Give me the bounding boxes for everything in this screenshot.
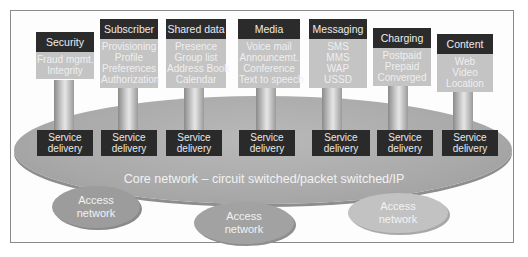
service-card-charging: Charging Postpaid Prepaid Converged [373,28,431,86]
service-delivery-subscriber: Service delivery [101,130,157,156]
service-item: Calendar [167,74,225,85]
service-item: WAP [310,63,366,74]
service-items: SMS MMS WAP USSD [309,39,367,88]
service-items: Postpaid Prepaid Converged [373,48,431,86]
service-delivery-label: delivery [312,143,370,154]
service-item: Provisioning [101,41,157,52]
service-delivery-label: Service [101,132,157,143]
service-item: Prepaid [374,61,430,72]
service-item: Address Book [167,63,225,74]
service-title: Subscriber [100,19,158,39]
access-network-2: Accessnetwork [194,202,294,244]
service-item: Video [438,67,492,78]
service-item: Conference [239,63,299,74]
access-network-label: Access [379,200,418,213]
service-item: SMS [310,41,366,52]
service-title: Media [238,19,300,39]
service-item: Location [438,78,492,89]
service-card-subscriber: Subscriber Provisioning Profile Preferen… [100,19,158,88]
service-title: Security [36,32,94,52]
pillar-charging [388,80,408,130]
service-items: Voice mail Announcemt. Conference Text t… [238,39,300,88]
service-delivery-label: delivery [166,143,222,154]
service-delivery-label: Service [312,132,370,143]
service-items: Presence Group list Address Book Calenda… [166,39,226,88]
service-delivery-label: delivery [101,143,157,154]
service-item: Text to speech [239,74,299,85]
service-delivery-label: Service [442,132,498,143]
service-card-media: Media Voice mail Announcemt. Conference … [238,19,300,88]
core-network-label: Core network – circuit switched/packet s… [0,172,528,186]
service-delivery-label: Service [166,132,222,143]
service-item: Converged [374,72,430,83]
service-card-messaging: Messaging SMS MMS WAP USSD [309,19,367,88]
access-network-label: network [77,207,116,220]
service-delivery-label: Service [377,132,433,143]
service-delivery-label: Service [239,132,295,143]
service-delivery-label: delivery [377,143,433,154]
service-item: Authorization [101,74,157,85]
service-delivery-label: Service [37,132,93,143]
access-network-label: Access [77,194,116,207]
service-items: Fraud mgmt. Integrity [36,52,94,79]
service-item: Voice mail [239,41,299,52]
service-delivery-media: Service delivery [239,130,295,156]
service-title: Shared data [166,19,226,39]
service-item: Postpaid [374,50,430,61]
service-item: Preferences [101,63,157,74]
service-item: MMS [310,52,366,63]
service-card-shared-data: Shared data Presence Group list Address … [166,19,226,88]
access-network-3: Accessnetwork [348,193,448,233]
service-card-security: Security Fraud mgmt. Integrity [36,32,94,79]
service-title: Content [437,34,493,54]
service-items: Provisioning Profile Preferences Authori… [100,39,158,88]
access-network-label: network [225,223,264,236]
service-card-content: Content Web Video Location [437,34,493,92]
service-item: Web [438,56,492,67]
service-delivery-shared-data: Service delivery [166,130,222,156]
service-title: Charging [373,28,431,48]
service-delivery-label: delivery [37,143,93,154]
service-item: Presence [167,41,225,52]
access-network-label: network [379,213,418,226]
access-network-1: Accessnetwork [52,186,140,228]
service-item: Announcemt. [239,52,299,63]
pillar-security [54,80,74,130]
service-delivery-content: Service delivery [442,130,498,156]
service-item: Group list [167,52,225,63]
access-network-label: Access [225,210,264,223]
service-delivery-messaging: Service delivery [312,130,370,156]
service-delivery-label: delivery [442,143,498,154]
service-delivery-label: delivery [239,143,295,154]
service-title: Messaging [309,19,367,39]
service-item: Fraud mgmt. [37,54,93,65]
service-item: USSD [310,74,366,85]
service-delivery-charging: Service delivery [377,130,433,156]
service-delivery-security: Service delivery [37,130,93,156]
service-item: Integrity [37,65,93,76]
service-items: Web Video Location [437,54,493,92]
service-item: Profile [101,52,157,63]
